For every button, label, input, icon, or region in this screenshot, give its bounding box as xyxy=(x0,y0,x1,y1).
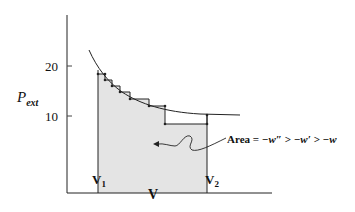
x-tick-label-v2: V2 xyxy=(205,172,219,189)
y-tick-label-20: 20 xyxy=(45,59,58,74)
y-tick-label-10: 10 xyxy=(45,109,58,124)
x-axis-label: V xyxy=(148,187,158,202)
area-annotation: Area = −w″ > −w′ > −w xyxy=(227,133,337,145)
work-area-shade xyxy=(98,74,207,193)
diagram-canvas: 20 10 Pext V1 V2 V Area = −w″ > −w′ > −w xyxy=(0,0,355,212)
y-axis-label: Pext xyxy=(16,89,40,108)
pv-diagram: 20 10 Pext V1 V2 V Area = −w″ > −w′ > −w xyxy=(0,0,355,212)
